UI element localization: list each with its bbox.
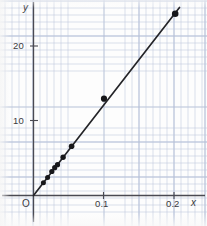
x-tick-label-0-1: 0.1	[95, 199, 109, 209]
data-point	[45, 175, 50, 180]
y-tick-label-20: 20	[13, 41, 24, 51]
plot-svg	[0, 0, 207, 226]
origin-label: O	[22, 199, 30, 209]
x-tick-label-0-2: 0.2	[166, 199, 180, 209]
y-tick-label-10: 10	[13, 116, 24, 126]
data-point	[55, 162, 60, 167]
y-axis-label: y	[23, 3, 28, 13]
data-point	[172, 10, 179, 17]
graph-figure: y x O 20 10 0.1 0.2	[0, 0, 207, 226]
x-axis-label: x	[191, 198, 196, 208]
data-point	[101, 96, 107, 102]
data-point	[60, 155, 65, 160]
data-point	[69, 143, 75, 149]
data-point	[41, 180, 46, 185]
